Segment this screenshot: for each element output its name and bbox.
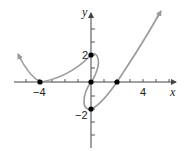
tick-label-4: 4 [140,86,146,98]
y-axis-label: y [81,5,88,19]
x-axis-label: x [169,85,176,99]
point-0-2 [88,52,93,57]
point-0-neg2 [88,106,93,111]
curve-right-arrow [157,11,161,18]
curve-left-arrow [18,54,21,60]
point-neg4-0 [37,79,42,84]
graph: y x −4 4 2 −2 [0,0,191,151]
tick-label-neg2: −2 [75,109,88,121]
point-0-0 [88,79,93,84]
tick-label-neg4: −4 [33,86,46,98]
point-2-0 [114,79,119,84]
tick-label-2: 2 [82,49,88,61]
